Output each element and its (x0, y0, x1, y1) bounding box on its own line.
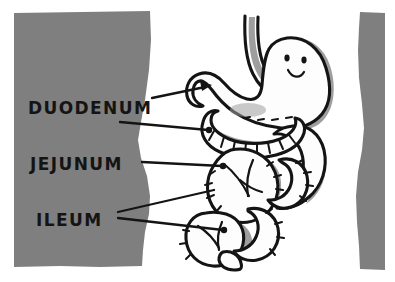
anatomy-figure: .ink { fill:none; stroke:#141414; stroke… (0, 0, 395, 282)
label-duodenum: DUODENUM (28, 98, 152, 118)
label-jejunum: JEJUNUM (29, 154, 123, 174)
label-ileum: ILEUM (36, 210, 103, 230)
labels-layer: DUODENUM JEJUNUM ILEUM (0, 0, 395, 282)
